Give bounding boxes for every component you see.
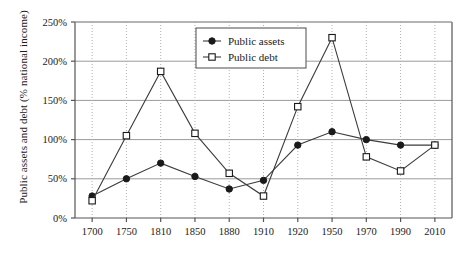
data-point-open-square (295, 103, 301, 109)
x-tick-label: 2010 (424, 226, 445, 237)
filled-circle-marker (209, 38, 215, 44)
x-tick-label: 1810 (150, 226, 171, 237)
data-point-open-square (157, 68, 163, 74)
chart-legend: Public assets Public debt (196, 28, 306, 68)
y-axis-ticks: 0%50%100%150%200%250% (43, 17, 76, 224)
data-point-filled-circle (329, 129, 335, 135)
x-tick-label: 1920 (287, 226, 308, 237)
data-point-filled-circle (192, 173, 198, 179)
data-point-open-square (432, 142, 438, 148)
x-tick-label: 1950 (322, 226, 343, 237)
line-chart-plot: 0%50%100%150%200%250% 170017501810185018… (0, 0, 472, 263)
y-tick-label: 0% (53, 213, 67, 224)
data-point-filled-circle (123, 176, 129, 182)
x-axis-ticks: 1700175018101850188019101920195019701990… (82, 218, 446, 237)
y-tick-label: 250% (43, 17, 68, 28)
data-point-filled-circle (397, 142, 403, 148)
x-tick-label: 1850 (184, 226, 205, 237)
data-point-open-square (226, 170, 232, 176)
chart-figure: Public assets and debt (% national incom… (0, 0, 472, 263)
x-tick-label: 1750 (116, 226, 137, 237)
legend-label-public-assets: Public assets (228, 35, 285, 47)
x-tick-label: 1880 (219, 226, 240, 237)
data-point-open-square (192, 130, 198, 136)
data-point-filled-circle (157, 160, 163, 166)
data-point-open-square (260, 193, 266, 199)
y-tick-label: 200% (43, 56, 68, 67)
data-point-open-square (89, 198, 95, 204)
x-tick-label: 1910 (253, 226, 274, 237)
data-point-filled-circle (295, 142, 301, 148)
y-tick-label: 100% (43, 134, 68, 145)
x-tick-label: 1990 (390, 226, 411, 237)
x-tick-label: 1970 (356, 226, 377, 237)
y-tick-label: 50% (48, 173, 68, 184)
x-tick-label: 1700 (82, 226, 103, 237)
data-point-filled-circle (363, 136, 369, 142)
legend-label-public-debt: Public debt (228, 51, 278, 63)
data-point-open-square (329, 34, 335, 40)
open-square-marker (209, 54, 215, 60)
data-point-open-square (397, 168, 403, 174)
data-point-open-square (123, 132, 129, 138)
data-point-filled-circle (260, 177, 266, 183)
data-point-filled-circle (226, 186, 232, 192)
y-tick-label: 150% (43, 95, 68, 106)
data-point-open-square (363, 154, 369, 160)
